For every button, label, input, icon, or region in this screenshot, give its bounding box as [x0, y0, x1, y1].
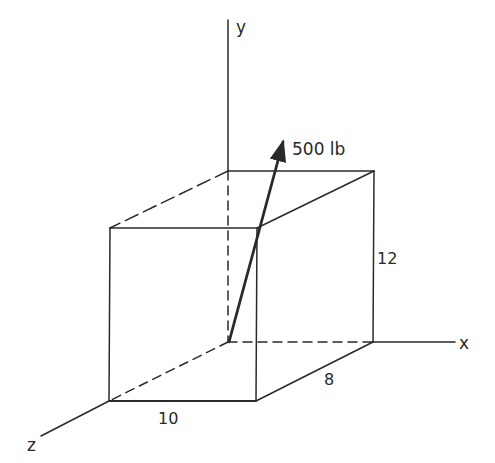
edge-front-right: [256, 228, 257, 401]
dimension-depth-label: 10: [158, 409, 178, 428]
z-axis-label: z: [27, 435, 36, 455]
edge-top-right: [257, 171, 374, 228]
edge-bottom-right: [256, 342, 373, 401]
force-label: 500 lb: [292, 139, 345, 159]
edge-front-left: [109, 228, 110, 401]
y-axis-label: y: [236, 17, 246, 37]
x-axis-label: x: [459, 333, 469, 353]
dimension-height-label: 12: [377, 249, 397, 268]
z-axis: [41, 401, 109, 436]
hidden-edge-left-bottom: [109, 342, 228, 401]
box-force-diagram: y x z 500 lb 12 8 10: [0, 0, 495, 463]
hidden-edge-top-left: [110, 171, 228, 228]
dimension-width-label: 8: [324, 370, 334, 389]
edge-back-right: [373, 171, 374, 342]
